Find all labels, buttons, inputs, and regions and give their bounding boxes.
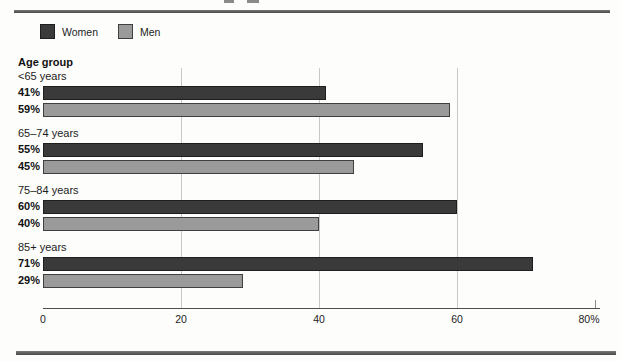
top-rule [14, 10, 610, 13]
legend-label: Women [62, 26, 98, 38]
men-bar [43, 160, 354, 174]
tick-mark-80 [595, 300, 596, 308]
men-bar [43, 217, 319, 231]
x-tick-label-20: 20 [175, 313, 187, 325]
legend-swatch-icon [118, 24, 133, 39]
men-bar [43, 103, 450, 117]
bar-value-label: 40% [18, 217, 44, 229]
age-group-label: 65–74 years [18, 127, 79, 139]
x-tick-label-60: 60 [451, 313, 463, 325]
age-group-label: <65 years [18, 70, 67, 82]
women-bar [43, 143, 423, 157]
statistical-figure: WomenMen Age group <65 years41%59%65–74 … [0, 0, 620, 362]
bar-value-label: 41% [18, 86, 44, 98]
age-group-label: 85+ years [18, 241, 67, 253]
x-tick-label-80: 80% [578, 313, 599, 325]
gridline-60 [457, 68, 458, 308]
women-bar [43, 86, 326, 100]
bottom-rule [16, 351, 616, 355]
y-axis-title: Age group [18, 56, 73, 68]
cropped-text-remnant [247, 0, 259, 3]
bar-value-label: 60% [18, 200, 44, 212]
women-bar [43, 257, 533, 271]
legend-swatch-icon [40, 24, 55, 39]
men-bar [43, 274, 243, 288]
bar-value-label: 55% [18, 143, 44, 155]
x-tick-label-0: 0 [40, 313, 46, 325]
x-tick-label-40: 40 [313, 313, 325, 325]
women-bar [43, 200, 457, 214]
cropped-text-remnant [224, 0, 234, 3]
bar-value-label: 71% [18, 257, 44, 269]
legend-label: Men [140, 26, 160, 38]
chart-legend: WomenMen [40, 24, 180, 39]
bar-value-label: 59% [18, 103, 44, 115]
x-axis-line [43, 308, 600, 309]
bar-value-label: 29% [18, 274, 44, 286]
age-group-label: 75–84 years [18, 184, 79, 196]
legend-item-women: Women [40, 24, 98, 39]
bar-value-label: 45% [18, 160, 44, 172]
legend-item-men: Men [118, 24, 160, 39]
